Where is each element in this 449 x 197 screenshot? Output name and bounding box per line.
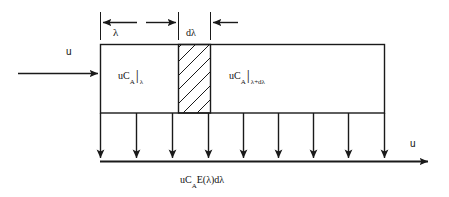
outlet-velocity-label: u xyxy=(410,139,416,149)
outlet-flux-expression: uCA|λ+dλ xyxy=(229,69,265,84)
exit-stream-arrows xyxy=(101,113,385,158)
inlet-flux-prefix: uC xyxy=(118,70,130,81)
inlet-velocity-label: u xyxy=(66,47,72,57)
outlet-flux-prefix: uC xyxy=(229,70,241,81)
inlet-flux-expression: uCA|λ xyxy=(118,69,143,84)
diagram-vector-layer xyxy=(0,0,449,197)
d-lambda-dimension-label: dλ xyxy=(186,28,196,38)
outlet-flux-evaluated-at: λ+dλ xyxy=(251,78,265,86)
outlet-flux-bar: | xyxy=(246,70,251,81)
inlet-flux-bar: | xyxy=(135,70,140,81)
lambda-dimension-label: λ xyxy=(113,27,118,38)
exit-flux-species: A xyxy=(192,182,197,190)
diagram-canvas: λ dλ u u uCA|λ uCA|λ+dλ uCAE(λ)dλ xyxy=(0,0,449,197)
exit-flux-prefix: uC xyxy=(180,174,192,185)
inlet-flux-evaluated-at: λ xyxy=(140,78,143,86)
exit-flux-function: E(λ)dλ xyxy=(197,174,224,185)
exit-age-flux-expression: uCAE(λ)dλ xyxy=(180,175,224,188)
